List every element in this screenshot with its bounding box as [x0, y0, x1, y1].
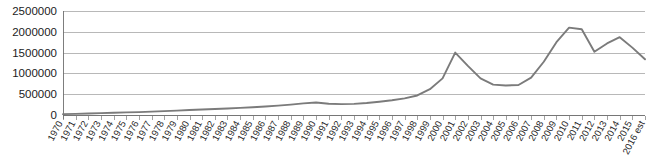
gridlines — [63, 12, 645, 116]
y-axis-tick-labels: 25000002000000150000010000005000000 — [12, 5, 57, 121]
y-axis-tick-label: 500000 — [19, 88, 57, 100]
data-line-series — [63, 28, 645, 115]
y-axis-tick-label: 2500000 — [12, 5, 57, 17]
x-axis-tickmarks — [64, 116, 646, 120]
line-chart-figure: 25000002000000150000010000005000000 1970… — [0, 0, 653, 167]
x-axis-tick-labels: 1970197119721973197419751976197719781979… — [45, 118, 647, 156]
y-axis-tick-label: 2000000 — [12, 26, 57, 38]
y-axis-tick-label: 1000000 — [12, 67, 57, 79]
data-series-group — [63, 28, 645, 115]
chart-canvas: 25000002000000150000010000005000000 1970… — [0, 0, 653, 167]
y-axis-tick-label: 1500000 — [12, 47, 57, 59]
